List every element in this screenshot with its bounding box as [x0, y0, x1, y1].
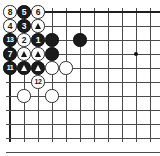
- stone-move-number: 8: [8, 8, 12, 17]
- stone-white-plain[interactable]: [31, 47, 44, 60]
- stone-black-plain[interactable]: [45, 33, 58, 46]
- stone-move-number: 5: [22, 8, 26, 17]
- stone-black-5[interactable]: 5: [17, 5, 30, 18]
- stone-black-plain[interactable]: [73, 33, 86, 46]
- stone-white-plain[interactable]: [45, 89, 58, 102]
- stone-move-number: 4: [8, 22, 12, 31]
- stone-black-3[interactable]: 3: [17, 19, 30, 32]
- triangle-mark-icon: [21, 51, 27, 57]
- go-board-diagram: 85643132171112: [0, 0, 160, 156]
- stone-white-plain[interactable]: [31, 19, 44, 32]
- stone-move-number: 2: [22, 36, 26, 45]
- stone-move-number: 6: [36, 8, 40, 17]
- triangle-mark-icon: [35, 65, 41, 71]
- triangle-mark-icon: [21, 65, 27, 71]
- stone-white-4[interactable]: 4: [3, 19, 16, 32]
- stone-black-11[interactable]: 11: [3, 61, 16, 74]
- triangle-mark-icon: [35, 23, 41, 29]
- stone-move-number: 11: [7, 64, 13, 71]
- stone-black-plain[interactable]: [45, 47, 58, 60]
- stone-move-number: 7: [8, 50, 12, 59]
- stone-move-number: 3: [22, 22, 26, 31]
- stone-move-number: 13: [7, 36, 14, 43]
- star-point-right-icon: [134, 52, 138, 56]
- stone-black-13[interactable]: 13: [3, 33, 16, 46]
- stone-move-number: 12: [35, 78, 42, 85]
- stone-white-8[interactable]: 8: [3, 5, 16, 18]
- stone-white-plain[interactable]: [17, 47, 30, 60]
- stone-black-plain[interactable]: [31, 61, 44, 74]
- stone-white-2[interactable]: 2: [17, 33, 30, 46]
- stone-black-1[interactable]: 1: [31, 33, 44, 46]
- stone-black-plain[interactable]: [17, 61, 30, 74]
- stone-white-plain[interactable]: [59, 61, 72, 74]
- stone-move-number: 1: [36, 36, 40, 45]
- stone-white-plain[interactable]: [45, 61, 58, 74]
- stone-white-6[interactable]: 6: [31, 5, 44, 18]
- stone-black-7[interactable]: 7: [3, 47, 16, 60]
- stone-white-plain[interactable]: [17, 89, 30, 102]
- triangle-mark-icon: [35, 51, 41, 57]
- stone-white-12[interactable]: 12: [31, 75, 44, 88]
